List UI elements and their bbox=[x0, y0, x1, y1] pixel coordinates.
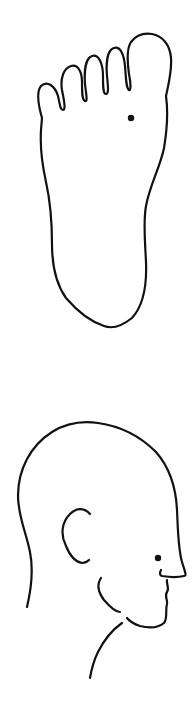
neck-front bbox=[90, 623, 122, 678]
jaw-line bbox=[99, 578, 120, 612]
head-acupoint-marker bbox=[155, 555, 161, 561]
foot-outline bbox=[38, 34, 171, 327]
ear bbox=[63, 509, 90, 563]
foot-acupoint-marker bbox=[128, 115, 134, 121]
illustration-canvas bbox=[0, 0, 196, 715]
head-profile-diagram bbox=[0, 360, 196, 715]
foot-diagram bbox=[0, 0, 196, 360]
face-lips-chin bbox=[127, 580, 168, 627]
head-outline bbox=[18, 422, 185, 607]
